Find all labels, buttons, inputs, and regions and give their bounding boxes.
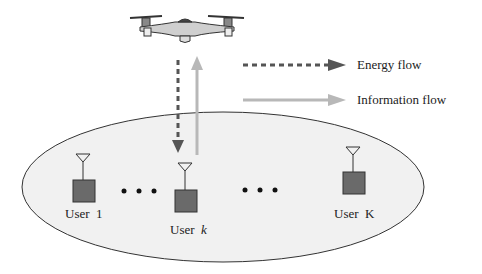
uav-drone-icon [130,16,244,43]
user-K-prefix: User [334,206,359,221]
user-K-label: User K [334,206,374,222]
legend-information-arrow [243,94,346,106]
user-1-label: User 1 [65,206,103,222]
user-1-prefix: User [65,206,90,221]
user-k-prefix: User [170,222,195,237]
user-1-index: 1 [96,206,103,221]
legend-energy-arrow [243,59,346,71]
user-k-label: User k [170,222,207,238]
user-k-index: k [201,222,207,237]
legend-energy-label: Energy flow [357,57,421,73]
diagram-canvas [0,0,482,274]
legend-information-label: Information flow [357,92,446,108]
user-K-index: K [365,206,374,221]
